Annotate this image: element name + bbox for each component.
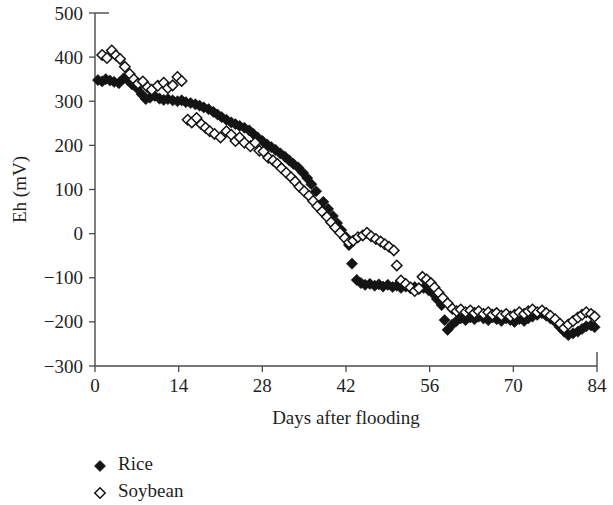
y-tick-label: 400 — [55, 47, 84, 68]
open-diamond-icon — [95, 488, 105, 498]
open-diamond-marker — [392, 260, 402, 270]
chart-figure: −300−200−1000100200300400500014284256708… — [0, 0, 613, 505]
x-tick-label: 56 — [420, 375, 439, 396]
x-tick-label: 42 — [337, 375, 356, 396]
series-rice — [92, 73, 600, 341]
scatter-plot: −300−200−1000100200300400500014284256708… — [0, 0, 613, 505]
y-tick-label: 500 — [55, 3, 84, 24]
y-tick-label: 200 — [55, 135, 84, 156]
legend-item-rice[interactable]: Rice — [94, 453, 152, 474]
y-tick-label: −300 — [44, 356, 83, 377]
y-tick-label: −100 — [44, 267, 83, 288]
y-tick-label: 300 — [55, 91, 84, 112]
y-tick-label: −200 — [44, 311, 83, 332]
x-tick-label: 28 — [253, 375, 272, 396]
legend-label: Soybean — [118, 480, 184, 501]
x-tick-label: 0 — [90, 375, 100, 396]
filled-diamond-marker — [346, 258, 357, 269]
x-tick-label: 84 — [588, 375, 608, 396]
legend-label: Rice — [118, 453, 153, 474]
y-axis-title: Eh (mV) — [9, 156, 31, 223]
y-tick-label: 0 — [74, 223, 84, 244]
data-points — [92, 45, 600, 340]
x-tick-label: 14 — [169, 375, 189, 396]
filled-diamond-icon — [94, 460, 105, 471]
series-soybean — [97, 45, 600, 333]
x-tick-label: 70 — [504, 375, 523, 396]
y-tick-label: 100 — [55, 179, 84, 200]
legend-item-soybean[interactable]: Soybean — [95, 480, 184, 501]
chart-legend: RiceSoybean — [94, 453, 184, 501]
x-axis-title: Days after flooding — [272, 407, 420, 428]
